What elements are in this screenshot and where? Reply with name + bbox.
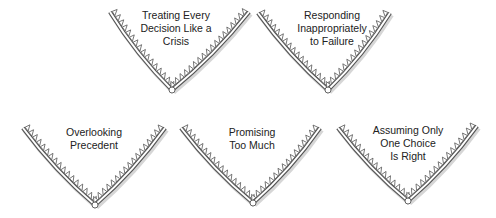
hinge-icon: [405, 198, 411, 204]
label-line: Decision Like a: [140, 22, 211, 35]
hinge-icon: [250, 200, 256, 206]
label-line: Promising: [229, 126, 276, 139]
pitfalls-diagram: Treating Every Decision Like a Crisis Re…: [0, 0, 496, 218]
label-line: Crisis: [140, 35, 211, 48]
shape-label-3: Overlooking Precedent: [66, 126, 122, 152]
label-line: Responding: [297, 9, 366, 22]
label-line: Inappropriately: [297, 22, 366, 35]
label-line: Is Right: [373, 150, 444, 163]
label-line: Assuming Only: [373, 124, 444, 137]
shape-label-1: Treating Every Decision Like a Crisis: [140, 9, 211, 48]
label-line: One Choice: [373, 137, 444, 150]
label-line: Overlooking: [66, 126, 122, 139]
shape-label-4: Promising Too Much: [229, 126, 276, 152]
v-shapes-canvas: [0, 0, 496, 218]
shape-label-2: Responding Inappropriately to Failure: [297, 9, 366, 48]
hinge-icon: [325, 87, 331, 93]
label-line: to Failure: [297, 35, 366, 48]
label-line: Precedent: [66, 139, 122, 152]
hinge-icon: [92, 202, 98, 208]
hinge-icon: [169, 87, 175, 93]
label-line: Too Much: [229, 139, 276, 152]
label-line: Treating Every: [140, 9, 211, 22]
shape-label-5: Assuming Only One Choice Is Right: [373, 124, 444, 163]
